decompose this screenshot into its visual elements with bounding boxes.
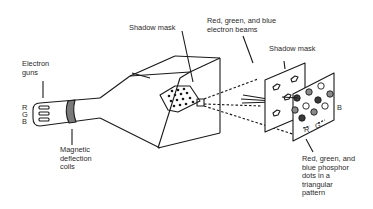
pointer-shadow-mask-detail — [284, 61, 285, 69]
label-dot-r: R — [304, 126, 309, 135]
electron-gun-icons — [39, 106, 49, 121]
crt-body — [100, 56, 220, 148]
label-shadow-mask-detail: Shadow mask — [269, 45, 315, 54]
label-electron-guns: Electron guns — [22, 60, 49, 77]
label-electron-beams: Red, green, and blue electron beams — [207, 17, 276, 34]
tube-shadow-mask — [160, 86, 200, 112]
deflection-coil — [66, 100, 76, 123]
label-dot-g: G — [315, 122, 321, 131]
label-phosphor-dots: Red, green, and blue phosphor dots in a … — [302, 155, 355, 198]
label-magnetic-coils: Magnetic deflection coils — [60, 146, 92, 172]
pointer-electron-beams — [243, 36, 253, 63]
label-gun-b: B — [22, 118, 27, 127]
pointer-phosphor-dots — [306, 139, 313, 152]
label-dot-b: B — [337, 104, 342, 113]
label-shadow-mask-tube: Shadow mask — [129, 24, 175, 33]
